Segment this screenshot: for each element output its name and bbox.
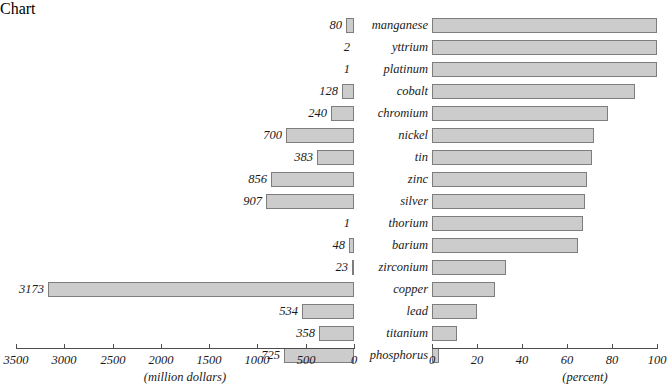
category-label-barium: barium bbox=[360, 237, 428, 254]
value-label-barium: 48 bbox=[285, 237, 345, 254]
percent-bar-titanium bbox=[432, 326, 457, 341]
value-bar-chromium bbox=[331, 106, 354, 121]
chart-row: 534lead bbox=[0, 301, 671, 323]
value-label-nickel: 700 bbox=[222, 127, 282, 144]
left-axis-title: (million dollars) bbox=[85, 369, 285, 385]
value-bar-tin bbox=[317, 150, 354, 165]
value-label-manganese: 80 bbox=[282, 17, 342, 34]
value-label-chromium: 240 bbox=[267, 105, 327, 122]
chart-row: 80manganese bbox=[0, 15, 671, 37]
percent-bar-copper bbox=[432, 282, 495, 297]
chart-row: 907silver bbox=[0, 191, 671, 213]
value-bar-titanium bbox=[319, 326, 354, 341]
right-axis-title: (percent) bbox=[485, 369, 671, 385]
percent-bar-thorium bbox=[432, 216, 583, 231]
value-label-zinc: 856 bbox=[207, 171, 267, 188]
percent-bar-zinc bbox=[432, 172, 587, 187]
category-label-zinc: zinc bbox=[360, 171, 428, 188]
left-axis-tick bbox=[306, 344, 307, 349]
left-axis-tick bbox=[64, 344, 65, 349]
category-label-yttrium: yttrium bbox=[360, 39, 428, 56]
left-axis-tick bbox=[16, 344, 17, 349]
category-label-chromium: chromium bbox=[360, 105, 428, 122]
value-bar-zirconium bbox=[352, 260, 354, 275]
left-axis-line bbox=[16, 348, 354, 349]
percent-bar-yttrium bbox=[432, 40, 657, 55]
category-label-tin: tin bbox=[360, 149, 428, 166]
right-axis-tick bbox=[477, 344, 478, 349]
percent-bar-tin bbox=[432, 150, 592, 165]
category-label-manganese: manganese bbox=[360, 17, 428, 34]
paired-bar-chart: 80manganese2yttrium1platinum128cobalt240… bbox=[0, 0, 671, 389]
category-label-silver: silver bbox=[360, 193, 428, 210]
value-label-platinum: 1 bbox=[290, 61, 350, 78]
category-label-platinum: platinum bbox=[360, 61, 428, 78]
left-axis-tick bbox=[354, 344, 355, 349]
chart-row: 2yttrium bbox=[0, 37, 671, 59]
value-label-zirconium: 23 bbox=[288, 259, 348, 276]
value-bar-cobalt bbox=[342, 84, 354, 99]
right-axis-tick bbox=[522, 344, 523, 349]
chart-row: 856zinc bbox=[0, 169, 671, 191]
value-bar-manganese bbox=[346, 18, 354, 33]
value-bar-zinc bbox=[271, 172, 354, 187]
category-label-cobalt: cobalt bbox=[360, 83, 428, 100]
value-label-yttrium: 2 bbox=[290, 39, 350, 56]
percent-bar-chromium bbox=[432, 106, 608, 121]
chart-row: 358titanium bbox=[0, 323, 671, 345]
value-label-thorium: 1 bbox=[290, 215, 350, 232]
percent-bar-nickel bbox=[432, 128, 594, 143]
chart-row: 3173copper bbox=[0, 279, 671, 301]
category-label-nickel: nickel bbox=[360, 127, 428, 144]
category-label-lead: lead bbox=[360, 303, 428, 320]
percent-bar-barium bbox=[432, 238, 578, 253]
percent-bar-zirconium bbox=[432, 260, 506, 275]
value-label-lead: 534 bbox=[238, 303, 298, 320]
chart-row: 240chromium bbox=[0, 103, 671, 125]
left-axis-tick bbox=[257, 344, 258, 349]
left-axis-tick bbox=[209, 344, 210, 349]
right-axis-tick bbox=[657, 344, 658, 349]
chart-top-title bbox=[0, 0, 671, 7]
right-axis-tick-label: 100 bbox=[627, 352, 671, 368]
value-bar-copper bbox=[48, 282, 354, 297]
value-label-silver: 907 bbox=[202, 193, 262, 210]
chart-row: 1thorium bbox=[0, 213, 671, 235]
percent-bar-lead bbox=[432, 304, 477, 319]
category-label-titanium: titanium bbox=[360, 325, 428, 342]
value-label-titanium: 358 bbox=[255, 325, 315, 342]
category-label-thorium: thorium bbox=[360, 215, 428, 232]
chart-row: 1platinum bbox=[0, 59, 671, 81]
percent-bar-cobalt bbox=[432, 84, 635, 99]
percent-bar-manganese bbox=[432, 18, 657, 33]
chart-row: 23zirconium bbox=[0, 257, 671, 279]
right-axis-line bbox=[432, 348, 657, 349]
value-label-copper: 3173 bbox=[0, 281, 44, 298]
percent-bar-platinum bbox=[432, 62, 657, 77]
left-axis-tick-label: 0 bbox=[324, 352, 384, 368]
right-axis-tick bbox=[567, 344, 568, 349]
left-axis-tick bbox=[161, 344, 162, 349]
right-axis-tick bbox=[432, 344, 433, 349]
percent-bar-silver bbox=[432, 194, 585, 209]
value-bar-lead bbox=[302, 304, 354, 319]
chart-row: 700nickel bbox=[0, 125, 671, 147]
chart-row: 383tin bbox=[0, 147, 671, 169]
value-label-tin: 383 bbox=[253, 149, 313, 166]
value-bar-silver bbox=[266, 194, 354, 209]
value-bar-nickel bbox=[286, 128, 354, 143]
category-label-copper: copper bbox=[360, 281, 428, 298]
value-bar-barium bbox=[349, 238, 354, 253]
chart-row: 48barium bbox=[0, 235, 671, 257]
category-label-zirconium: zirconium bbox=[360, 259, 428, 276]
right-axis-tick bbox=[612, 344, 613, 349]
value-label-cobalt: 128 bbox=[278, 83, 338, 100]
chart-row: 128cobalt bbox=[0, 81, 671, 103]
left-axis-tick bbox=[113, 344, 114, 349]
